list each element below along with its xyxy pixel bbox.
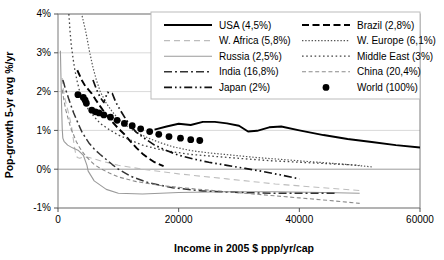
y-tick-label: -1% [33,202,51,213]
world-data-point [177,135,184,142]
world-data-point [83,100,90,107]
world-data-point [187,136,194,143]
legend-label-mideast: Middle East (3%) [357,51,433,62]
legend-label-china: China (20,4%) [357,66,421,77]
legend-label-wafrica: W. Africa (5,8%) [219,35,291,46]
y-tick-label: 3% [37,47,52,58]
legend-marker-world-icon [323,84,330,91]
population-growth-vs-income-chart: -1%0%1%2%3%4% 0200004000060000 USA (4,5%… [0,0,444,260]
legend-label-brazil: Brazil (2,8%) [357,20,414,31]
legend-label-usa: USA (4,5%) [219,20,271,31]
legend-label-russia: Russia (2,5%) [219,51,282,62]
chart-container: -1%0%1%2%3%4% 0200004000060000 USA (4,5%… [0,0,444,260]
legend-label-weurope: W. Europe (6,1%) [357,35,436,46]
y-tick-label: 0% [37,164,52,175]
world-data-point [155,131,162,138]
x-tick-label: 0 [55,214,61,225]
x-tick-label: 20000 [165,214,193,225]
y-tick-label: 4% [37,8,52,19]
x-axis-title: Income in 2005 $ ppp/yr/cap [174,242,314,254]
y-axis-title: Pop-growth 5-yr avg %/yr [3,52,15,179]
legend-label-world: World (100%) [357,82,418,93]
world-data-point [129,122,136,129]
chart-legend: USA (4,5%)W. Africa (5,8%)Russia (2,5%)I… [151,12,436,99]
world-data-point [166,133,173,140]
world-data-point [114,117,121,124]
world-data-point [196,137,203,144]
legend-label-india: India (16,8%) [219,66,278,77]
world-data-point [121,120,128,127]
world-data-point [107,114,114,121]
x-tick-label: 60000 [406,214,434,225]
y-tick-label: 2% [37,86,52,97]
world-data-point [100,111,107,118]
world-data-point [146,128,153,135]
y-tick-label: 1% [37,125,52,136]
x-tick-label: 40000 [285,214,313,225]
world-data-point [137,125,144,132]
legend-label-japan: Japan (2%) [219,82,270,93]
